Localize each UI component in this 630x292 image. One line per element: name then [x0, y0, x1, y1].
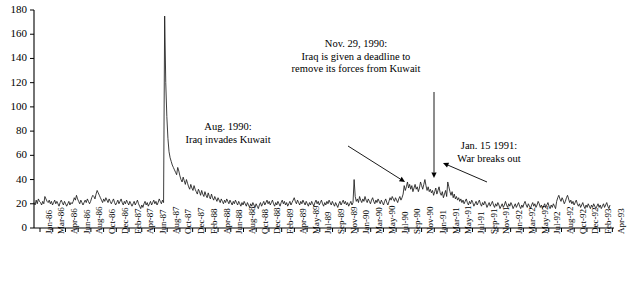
- arrow-shaft-jan-1991: [448, 165, 487, 182]
- x-axis-tick-label: Sep-90: [412, 209, 422, 235]
- x-axis-tick-label: Jun-88: [234, 210, 244, 235]
- x-axis-tick-label: Apr-87: [145, 208, 155, 234]
- x-axis-tick-label: Jan-91: [438, 210, 448, 234]
- x-axis-tick-label: Feb-88: [209, 209, 219, 235]
- annotation-line: Iraq invades Kuwait: [185, 134, 270, 147]
- x-axis-tick-label: Feb-89: [285, 209, 295, 235]
- y-axis-tick-label: 100: [0, 100, 27, 112]
- annotation-line: remove its forces from Kuwait: [292, 63, 421, 76]
- y-axis-ticks: [30, 10, 34, 228]
- x-axis-tick-label: Jul-91: [476, 212, 486, 235]
- annotation-line: Iraq is given a deadline to: [292, 51, 421, 64]
- x-axis-tick-label: May-92: [540, 206, 550, 235]
- x-axis-tick-label: Oct-88: [260, 209, 270, 234]
- annotation-line: Aug. 1990:: [185, 121, 270, 134]
- arrow-shaft-aug-1990: [348, 146, 400, 179]
- x-axis-tick-label: Jun-86: [82, 210, 92, 235]
- x-axis-tick-label: May-91: [463, 206, 473, 235]
- chart-container: 020406080100120140160180 Jan-86Mar-86Apr…: [0, 0, 630, 292]
- x-axis-tick-label: Sep-89: [336, 209, 346, 235]
- x-axis-tick-label: Jul-90: [400, 212, 410, 235]
- y-axis-tick-label: 140: [0, 51, 27, 63]
- x-axis-tick-label: Sep-91: [489, 209, 499, 235]
- x-axis-tick-label: Aug-87: [171, 207, 181, 235]
- x-axis-tick-label: Jan-86: [44, 210, 54, 234]
- annotation-jan-1991: Jan. 15 1991:War breaks out: [457, 140, 520, 165]
- x-axis-tick-label: Jun-87: [158, 210, 168, 235]
- arrow-head-aug-1990: [399, 177, 405, 182]
- x-axis-tick-label: May-90: [387, 206, 397, 235]
- x-axis-tick-label: May-89: [311, 206, 321, 235]
- x-axis-tick-label: Aug-88: [247, 207, 257, 235]
- y-axis-tick-label: 40: [0, 173, 27, 185]
- y-axis-tick-label: 120: [0, 76, 27, 88]
- x-axis-tick-label: Feb-93: [603, 209, 613, 235]
- x-axis-tick-label: Mar-91: [451, 207, 461, 234]
- annotation-line: Jan. 15 1991:: [457, 140, 520, 153]
- x-axis-tick-label: Oct-87: [183, 209, 193, 234]
- x-axis-tick-label: Mar-90: [374, 207, 384, 234]
- annotation-nov-1990: Nov. 29, 1990:Iraq is given a deadline t…: [292, 38, 421, 76]
- x-axis-tick-label: Mar-92: [527, 207, 537, 234]
- y-axis-tick-label: 60: [0, 148, 27, 160]
- x-axis-tick-label: Oct-92: [578, 209, 588, 234]
- x-axis-tick-label: Dec-86: [120, 208, 130, 235]
- x-axis-tick-label: Apr-93: [616, 208, 626, 234]
- x-axis-tick-label: Aug-86: [94, 207, 104, 235]
- x-axis-tick-label: Jan-90: [361, 210, 371, 234]
- annotation-aug-1990: Aug. 1990:Iraq invades Kuwait: [185, 121, 270, 146]
- x-axis-tick-label: Jul-89: [323, 212, 333, 235]
- x-axis-tick-label: Dec-87: [196, 208, 206, 235]
- x-axis-tick-label: Jul-92: [552, 212, 562, 235]
- x-axis-tick-label: Apr-88: [222, 208, 232, 234]
- x-axis-tick-label: Oct-86: [107, 209, 117, 234]
- arrow-head-nov-1990: [431, 173, 436, 179]
- x-axis-tick-label: Aug-92: [565, 207, 575, 235]
- x-axis-tick-label: Apr-89: [298, 208, 308, 234]
- x-axis-tick-label: Nov-90: [425, 207, 435, 235]
- x-axis-tick-label: Apr-86: [69, 208, 79, 234]
- annotation-line: War breaks out: [457, 153, 520, 166]
- x-axis-tick-label: Dec-92: [590, 208, 600, 235]
- x-axis-tick-label: Jan-92: [514, 210, 524, 234]
- x-axis-tick-label: Feb-87: [133, 209, 143, 235]
- y-axis-tick-label: 20: [0, 197, 27, 209]
- y-axis-tick-label: 160: [0, 27, 27, 39]
- x-axis-tick-label: Nov-89: [349, 207, 359, 235]
- x-axis-tick-label: Dec-88: [272, 208, 282, 235]
- y-axis-tick-label: 0: [0, 221, 27, 233]
- annotation-line: Nov. 29, 1990:: [292, 38, 421, 51]
- x-axis-tick-label: Nov-91: [501, 207, 511, 235]
- y-axis-tick-label: 180: [0, 3, 27, 15]
- annotation-arrows: [348, 92, 487, 182]
- y-axis-tick-label: 80: [0, 124, 27, 136]
- x-axis-tick-label: Mar-86: [56, 207, 66, 234]
